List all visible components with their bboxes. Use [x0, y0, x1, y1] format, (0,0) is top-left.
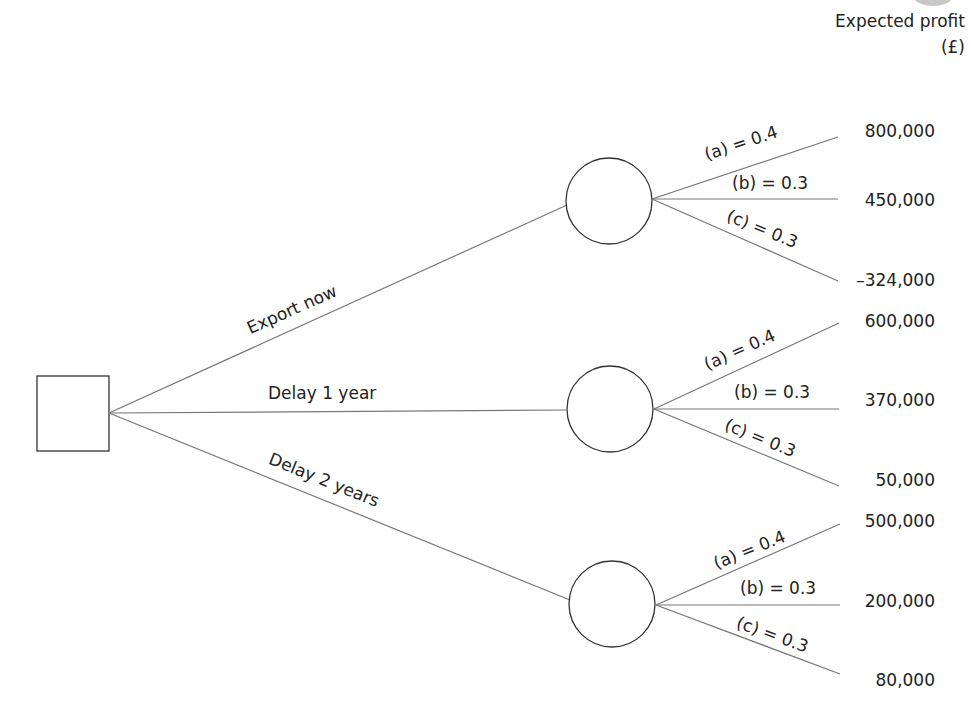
chance-node-3	[569, 561, 655, 647]
value-3b: 200,000	[825, 591, 935, 611]
value-2a: 600,000	[825, 311, 935, 331]
branch-line-export-now	[109, 205, 567, 413]
decision-node-square	[37, 376, 109, 451]
value-1a: 800,000	[825, 121, 935, 141]
value-2c: 50,000	[825, 470, 935, 490]
expected-profit-header: Expected profit (£)	[835, 8, 965, 60]
prob-label-1b: (b) = 0.3	[732, 173, 808, 193]
header-line2: (£)	[835, 34, 965, 60]
branch-line-delay-2-years	[109, 413, 570, 600]
decision-tree-lines	[0, 0, 973, 723]
value-2b: 370,000	[825, 390, 935, 410]
chance-node-2	[567, 366, 653, 452]
value-1b: 450,000	[825, 190, 935, 210]
value-1c: –324,000	[825, 270, 935, 290]
value-3a: 500,000	[825, 511, 935, 531]
prob-label-3b: (b) = 0.3	[740, 578, 816, 598]
branch-label-delay-1-year: Delay 1 year	[268, 383, 376, 403]
chance-node-1	[566, 158, 652, 244]
prob-label-2b: (b) = 0.3	[734, 382, 810, 402]
branch-line-delay-1-year	[109, 410, 566, 413]
value-3c: 80,000	[825, 670, 935, 690]
header-line1: Expected profit	[835, 8, 965, 34]
